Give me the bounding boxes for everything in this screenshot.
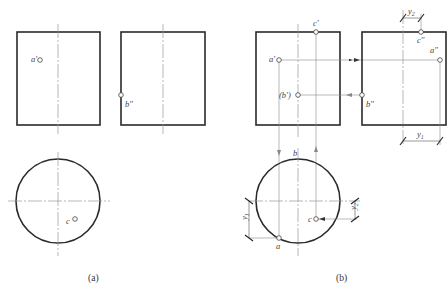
label-a-prime: a' <box>269 54 275 64</box>
label-c-prime: c' <box>313 18 319 28</box>
label-a: a <box>276 241 280 251</box>
point-a-prime <box>277 58 282 63</box>
point-a-prime <box>38 58 43 63</box>
point-a <box>277 236 282 241</box>
point-b-prime-hidden <box>296 93 301 98</box>
caption-a: (a) <box>88 273 99 284</box>
top-view-a: c <box>8 152 110 256</box>
point-c <box>314 217 319 222</box>
label-c-double-prime: c'' <box>417 35 425 45</box>
dimension-y1-label: y1 <box>416 129 424 140</box>
figure-a: a' b'' c (a) <box>8 24 205 284</box>
dimension-y2-right-label: y2 <box>348 203 359 211</box>
arrow-left-icon <box>319 217 325 221</box>
point-c <box>73 217 78 222</box>
caption-b: (b) <box>336 273 347 284</box>
label-b-double-prime: b'' <box>125 99 133 109</box>
point-c-prime <box>314 30 319 35</box>
arrow-down-icon <box>277 150 281 156</box>
point-b-double-prime <box>119 93 124 98</box>
arrow-right-icon <box>354 58 360 62</box>
point-a-double-prime <box>438 58 443 63</box>
side-view-b: c'' a'' b'' y2 y1 <box>360 6 446 145</box>
front-view-rectangle <box>17 32 100 125</box>
arrow-up-icon <box>314 146 318 152</box>
point-c-double-prime <box>419 30 424 35</box>
orthographic-projection-diagram: a' b'' c (a) <box>0 0 448 290</box>
label-c: c <box>308 214 312 224</box>
label-b-prime: (b') <box>279 90 291 100</box>
point-b-double-prime <box>360 93 365 98</box>
figure-b: a' (b') c' c'' a'' b'' y2 <box>239 6 446 284</box>
side-view-a: b'' <box>119 24 205 134</box>
dimension-y2-label: y2 <box>407 6 415 17</box>
label-b-double-prime: b'' <box>366 99 374 109</box>
front-view-b: a' (b') c' <box>256 18 438 238</box>
label-a-double-prime: a'' <box>430 45 438 55</box>
label-c: c <box>66 216 70 226</box>
top-view-b: y1 y2 a b c <box>239 148 360 256</box>
front-view-a: a' <box>17 24 100 134</box>
arrow-left-icon <box>346 93 352 97</box>
dimension-y1-left-label: y1 <box>239 213 250 221</box>
label-a-prime: a' <box>31 54 37 64</box>
label-b: b <box>293 148 297 158</box>
